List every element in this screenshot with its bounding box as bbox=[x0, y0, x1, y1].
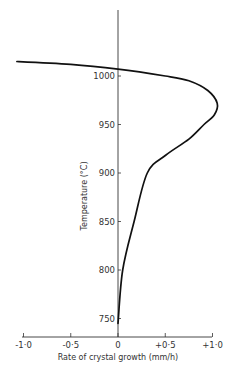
y-tick-label: 850 bbox=[99, 217, 115, 227]
y-tick-label: 750 bbox=[99, 314, 115, 324]
x-tick-label: +1·0 bbox=[202, 340, 223, 350]
y-tick-label: 1000 bbox=[93, 71, 115, 81]
crystal-growth-chart: -1·0-0·50+0·5+1·0 7508008509009501000 Ra… bbox=[0, 0, 233, 375]
growth-rate-curve bbox=[17, 62, 218, 324]
x-axis-label: Rate of crystal growth (mm/h) bbox=[58, 353, 179, 362]
y-tick-label: 800 bbox=[99, 265, 115, 275]
x-tick-label: 0 bbox=[115, 340, 120, 350]
x-tick-label: -0·5 bbox=[62, 340, 79, 350]
x-tick-label: -1·0 bbox=[15, 340, 32, 350]
y-tick-label: 900 bbox=[99, 168, 115, 178]
y-tick-label: 950 bbox=[99, 120, 115, 130]
x-tick-label: +0·5 bbox=[155, 340, 176, 350]
y-axis-label: Temperature (°C) bbox=[80, 161, 89, 231]
x-axis-ticks: -1·0-0·50+0·5+1·0 bbox=[15, 333, 223, 350]
y-axis-ticks: 7508008509009501000 bbox=[93, 71, 121, 324]
